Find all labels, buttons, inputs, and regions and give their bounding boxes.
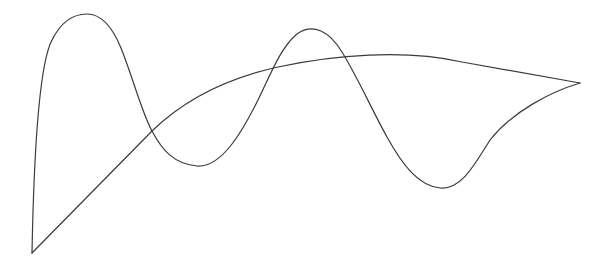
figure-background bbox=[0, 0, 607, 268]
curve-figure-svg bbox=[0, 0, 607, 268]
figure-canvas bbox=[0, 0, 607, 268]
